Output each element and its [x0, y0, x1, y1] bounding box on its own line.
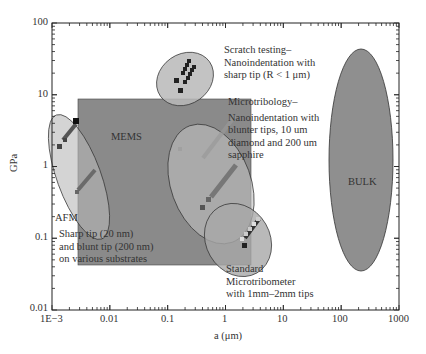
microtribology-desc-line: Microtribology– [228, 96, 319, 109]
microtribology-desc-line: blunter tips, 10 um [228, 124, 319, 137]
bulk-label: BULK [348, 176, 377, 189]
microtribology-desc-line: sapphire [228, 149, 319, 162]
scratch-desc-line: Scratch testing– [224, 44, 315, 57]
x-tick-label: 1E−3 [40, 313, 63, 324]
bulk-region [329, 49, 393, 271]
scratch-desc-line: Nanoindentation with [224, 57, 315, 70]
afm-description: Sharp tip (20 nm) and blunt tip (200 nm)… [59, 228, 154, 266]
x-tick-label: 1 [222, 313, 227, 324]
y-tick-label: 1 [43, 159, 48, 170]
microtribometer-description: Standard Microtribometer with 1mm–2mm ti… [226, 263, 314, 301]
afm-desc-line: on various substrates [59, 253, 154, 266]
x-tick-label: 100 [332, 313, 348, 324]
scratch-description: Scratch testing– Nanoindentation with sh… [224, 44, 315, 82]
microtribometer-desc-line: Standard [226, 263, 314, 276]
mems-label: MEMS [111, 131, 142, 144]
afm-desc-line: and blunt tip (200 nm) [59, 241, 154, 254]
x-tick-label: 1000 [388, 313, 409, 324]
microtribometer-desc-line: with 1mm–2mm tips [226, 288, 314, 301]
y-tick-label: 10 [38, 88, 49, 99]
x-tick-label: 0.01 [100, 313, 118, 324]
x-tick-label: 10 [277, 313, 288, 324]
y-tick-label: 0.01 [30, 302, 48, 313]
afm-desc-line: Sharp tip (20 nm) [59, 228, 154, 241]
scratch-desc-line: sharp tip (R < 1 μm) [224, 69, 315, 82]
y-tick-label: 100 [32, 16, 48, 27]
afm-label: AFM [55, 212, 78, 225]
microtribology-desc-line: Nanoindentation with [228, 112, 319, 125]
x-axis-title: a (μm) [214, 330, 242, 343]
x-tick-label: 0.1 [161, 313, 174, 324]
y-axis-title: GPa [8, 154, 21, 172]
y-tick-label: 0.1 [35, 231, 48, 242]
microtribometer-desc-line: Microtribometer [226, 276, 314, 289]
microtribology-desc-line: diamond and 200 um [228, 137, 319, 150]
microtribology-description: Microtribology– Nanoindentation with blu… [228, 96, 319, 162]
